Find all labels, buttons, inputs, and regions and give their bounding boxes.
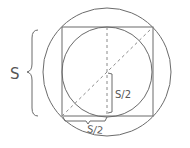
half-horizontal-bracket (63, 117, 107, 124)
side-brace (27, 30, 38, 116)
half-vertical-bracket (108, 73, 112, 113)
side-label: S (10, 65, 20, 83)
half-vertical-label: S/2 (115, 89, 131, 100)
half-horizontal-label: S/2 (87, 123, 104, 136)
geometry-diagram: S S/2 S/2 (0, 0, 190, 148)
